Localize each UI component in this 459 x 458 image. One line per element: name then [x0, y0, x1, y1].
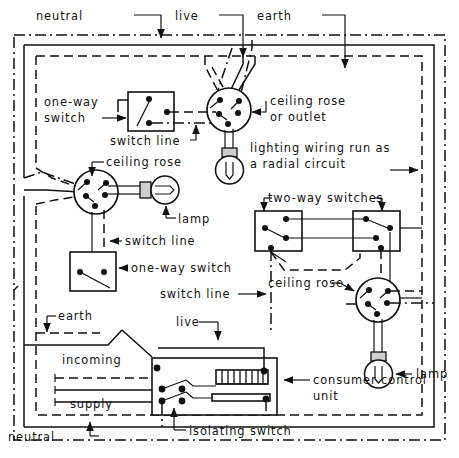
- live-bottom-leader: [199, 322, 218, 340]
- label-switch-line-3: switch line: [160, 287, 230, 301]
- wiring-diagram-canvas: neutral live earth one-way switch ceilin…: [0, 0, 459, 458]
- label-ceiling-rose-outlet-line1: ceiling rose: [270, 94, 346, 108]
- fuse-bank: [216, 368, 268, 384]
- lamp-1-label-leader: [166, 206, 176, 218]
- label-switch-line-2: switch line: [125, 234, 195, 248]
- earth-bottom-leader: [47, 316, 56, 332]
- lamp-2: [140, 176, 179, 204]
- ceiling-rose-3: [346, 278, 434, 322]
- label-one-way-switch-2: one-way switch: [131, 261, 232, 275]
- top-label-leaders: [134, 15, 345, 68]
- lamp-1: [216, 148, 244, 184]
- two-way-switch-right[interactable]: [353, 211, 400, 251]
- label-earth-bottom: earth: [58, 309, 93, 323]
- label-isolating-switch: isolating switch: [189, 424, 292, 438]
- lamp-3-drop: [374, 319, 382, 352]
- label-ceiling-rose-3: ceiling rose: [268, 276, 344, 290]
- label-neutral-bottom: neutral: [8, 430, 55, 444]
- switch-line-2-wires: [92, 210, 104, 252]
- neutral-bar: [212, 394, 270, 402]
- label-earth-top: earth: [257, 9, 292, 23]
- label-one-way-switch-1-line1: one-way: [44, 95, 99, 109]
- label-switch-line-1: switch line: [110, 134, 180, 148]
- label-ceiling-rose-outlet-line2: or outlet: [270, 110, 327, 124]
- neutral-bottom-leader: [90, 422, 99, 436]
- label-radial-note-line1: lighting wiring run as: [250, 141, 390, 155]
- label-incoming: incoming: [62, 353, 122, 367]
- ceiling-rose-1: [207, 88, 251, 132]
- label-two-way-switches: two-way switches: [268, 191, 383, 205]
- one-way-switch-1[interactable]: [128, 92, 174, 131]
- label-lamp-1: lamp: [178, 212, 210, 226]
- label-consumer-unit-line2: unit: [313, 389, 339, 403]
- label-live-bottom: live: [176, 315, 200, 329]
- label-one-way-switch-1-line2: switch: [44, 111, 86, 125]
- label-neutral-top: neutral: [36, 9, 83, 23]
- ceiling-rose-1-leader: [252, 101, 266, 112]
- one-way-switch-2[interactable]: [70, 252, 116, 291]
- label-supply: supply: [70, 397, 113, 411]
- wiring-diagram-page: neutral live earth one-way switch ceilin…: [0, 0, 459, 458]
- label-ceiling-rose-2: ceiling rose: [106, 155, 182, 169]
- label-consumer-unit-line1: consumer control: [313, 373, 427, 387]
- two-way-switch-left[interactable]: [255, 211, 302, 251]
- label-live-top: live: [175, 9, 199, 23]
- ceiling-rose-2: [74, 170, 118, 214]
- label-lamp-2: lamp: [416, 367, 448, 381]
- switch-line-label-1-leader: [190, 125, 196, 140]
- label-radial-note-line2: a radial circuit: [250, 157, 346, 171]
